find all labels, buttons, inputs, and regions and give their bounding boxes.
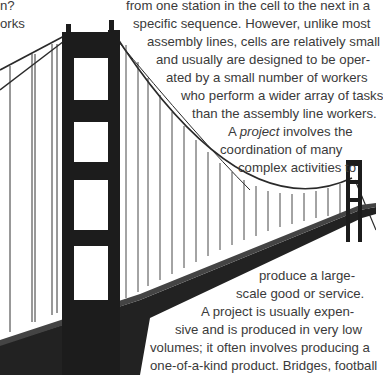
project-suffix: involves the	[279, 124, 352, 139]
paragraph-bottom-line-2: scale good or service.	[236, 285, 364, 303]
paragraph-bottom-line-6: one-of-a-kind product. Bridges, football	[150, 357, 377, 375]
left-fragment-line-1: n?	[0, 0, 15, 15]
project-term: project	[240, 124, 280, 139]
paragraph-top-line-6: who perform a wider array of tasks	[181, 87, 383, 105]
paragraph-bottom-line-4: sive and is produced in very low	[175, 321, 362, 339]
paragraph-top-line-3: assembly lines, cells are relatively sma…	[147, 33, 380, 51]
paragraph-bottom-line-5: volumes; it often involves producing a	[150, 339, 370, 357]
paragraph-top-line-5: ated by a small number of workers	[166, 69, 368, 87]
paragraph-top-line-1: from one station in the cell to the next…	[126, 0, 370, 15]
project-intro-line-1: A project involves the	[228, 123, 353, 141]
paragraph-top-line-7: than the assembly line workers.	[192, 105, 377, 123]
paragraph-bottom-line-1: produce a large-	[259, 267, 355, 285]
paragraph-top-line-4: and usually are designed to be oper-	[156, 51, 370, 69]
paragraph-bottom-line-3: A project is usually expen-	[201, 303, 354, 321]
project-prefix: A	[228, 124, 240, 139]
paragraph-top-line-2: specific sequence. However, unlike most	[133, 15, 371, 33]
left-fragment-line-2: orks	[0, 15, 25, 33]
project-intro-line-2: coordination of many	[220, 141, 342, 159]
project-intro-line-3: complex activities to	[238, 159, 356, 177]
